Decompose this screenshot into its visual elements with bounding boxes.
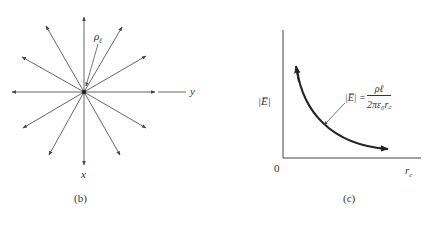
formula-numerator: ρℓ — [367, 83, 391, 96]
caption-b: (b) — [74, 192, 87, 204]
charge-density-label: ρℓ — [94, 30, 102, 45]
field-line-ul1 — [46, 26, 84, 92]
line-charge-dot — [82, 90, 86, 94]
x-axis-label: x — [81, 168, 86, 180]
origin-label: 0 — [274, 162, 280, 174]
e-magnitude-axis-label: |E̅| — [258, 95, 271, 107]
field-line-ll2 — [23, 92, 84, 128]
formula-lhs: |E̅| = — [345, 92, 366, 103]
charge-pointer-arrow — [86, 44, 98, 86]
field-line-lr1 — [84, 92, 120, 155]
formula-denominator: 2πε₀r꜀ — [367, 96, 391, 111]
formula-pointer-arrow — [324, 103, 345, 125]
rc-axis-label: rc — [405, 164, 412, 179]
caption-c: (c) — [343, 192, 355, 204]
formula-fraction: ρℓ 2πε₀r꜀ — [367, 83, 391, 111]
field-line-ul2 — [22, 57, 84, 92]
y-axis-label: y — [190, 85, 195, 97]
field-line-lr2 — [84, 92, 146, 128]
field-line-ll1 — [49, 92, 84, 155]
field-line-ur1 — [84, 27, 122, 92]
